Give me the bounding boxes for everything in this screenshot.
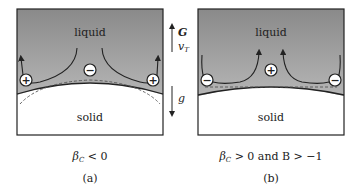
label-g: g (178, 92, 185, 105)
svg-text:+: + (21, 74, 30, 87)
sign-center: − (84, 64, 96, 77)
svg-text:−: − (85, 64, 94, 77)
liquid-label: liquid (255, 26, 287, 39)
sign-right: + (147, 74, 159, 87)
direction-arrows: G vT g (172, 26, 190, 114)
sign-left: + (20, 74, 32, 87)
condition-a: βC < 0 (72, 150, 108, 164)
tag-a: (a) (82, 172, 97, 185)
sign-center: + (265, 64, 277, 77)
sign-right: − (329, 74, 341, 87)
sign-left: − (201, 74, 213, 87)
tag-b: (b) (263, 172, 279, 185)
label-G: G (178, 26, 187, 39)
svg-text:−: − (202, 74, 211, 87)
solid-label: solid (258, 111, 284, 124)
label-vT: vT (178, 40, 190, 54)
svg-text:+: + (148, 74, 157, 87)
panel-a: liquid solid − + + (17, 9, 163, 135)
svg-text:+: + (266, 64, 275, 77)
svg-text:−: − (330, 74, 339, 87)
liquid-label: liquid (74, 26, 106, 39)
solid-label: solid (77, 111, 103, 124)
panel-b: liquid solid + − − (198, 9, 344, 135)
condition-b: βC > 0 and B > −1 (218, 150, 322, 164)
diagram: liquid solid − + + liquid solid + (0, 0, 358, 189)
